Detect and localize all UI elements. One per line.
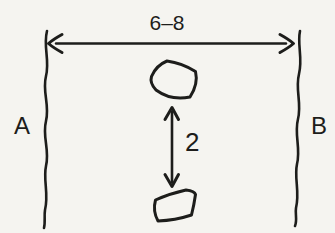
boundary-b-label: B [311, 114, 327, 138]
vertical-double-arrow [165, 108, 179, 187]
boundary-a-label: A [14, 114, 30, 138]
right-wavy-boundary [295, 31, 300, 226]
left-wavy-boundary [44, 31, 47, 228]
gap-dimension-label: 2 [185, 129, 199, 155]
distance-diagram: 6–8 A B 2 [0, 0, 335, 233]
upper-stone-shape [151, 61, 196, 98]
diagram-canvas [0, 0, 335, 233]
width-dimension-label: 6–8 [137, 12, 197, 33]
horizontal-double-arrow [49, 35, 294, 53]
lower-stone-shape [154, 190, 195, 221]
